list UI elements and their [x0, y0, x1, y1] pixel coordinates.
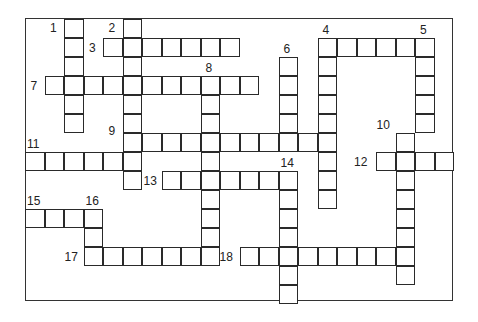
- crossword-cell[interactable]: [318, 171, 338, 190]
- crossword-cell[interactable]: [103, 76, 123, 95]
- crossword-cell[interactable]: [123, 152, 143, 171]
- crossword-cell[interactable]: [201, 171, 221, 190]
- crossword-cell[interactable]: [201, 247, 221, 266]
- crossword-cell[interactable]: [25, 152, 45, 171]
- crossword-cell[interactable]: [396, 152, 416, 171]
- crossword-cell[interactable]: [142, 133, 162, 152]
- crossword-cell[interactable]: [396, 133, 416, 152]
- crossword-cell[interactable]: [318, 247, 338, 266]
- crossword-cell[interactable]: [279, 247, 299, 266]
- crossword-cell[interactable]: [162, 171, 182, 190]
- crossword-cell[interactable]: [357, 247, 377, 266]
- crossword-cell[interactable]: [279, 114, 299, 133]
- crossword-cell[interactable]: [201, 133, 221, 152]
- crossword-cell[interactable]: [64, 114, 84, 133]
- crossword-cell[interactable]: [396, 247, 416, 266]
- crossword-cell[interactable]: [415, 114, 435, 133]
- crossword-cell[interactable]: [162, 133, 182, 152]
- crossword-cell[interactable]: [123, 19, 143, 38]
- crossword-cell[interactable]: [103, 38, 123, 57]
- crossword-cell[interactable]: [123, 38, 143, 57]
- crossword-cell[interactable]: [396, 228, 416, 247]
- crossword-cell[interactable]: [201, 190, 221, 209]
- crossword-cell[interactable]: [415, 95, 435, 114]
- crossword-cell[interactable]: [220, 171, 240, 190]
- crossword-cell[interactable]: [396, 171, 416, 190]
- crossword-cell[interactable]: [181, 247, 201, 266]
- crossword-cell[interactable]: [162, 247, 182, 266]
- crossword-cell[interactable]: [162, 76, 182, 95]
- crossword-cell[interactable]: [220, 38, 240, 57]
- crossword-cell[interactable]: [279, 133, 299, 152]
- crossword-cell[interactable]: [396, 190, 416, 209]
- crossword-cell[interactable]: [103, 152, 123, 171]
- crossword-cell[interactable]: [123, 95, 143, 114]
- crossword-cell[interactable]: [279, 228, 299, 247]
- crossword-cell[interactable]: [279, 57, 299, 76]
- crossword-cell[interactable]: [240, 76, 260, 95]
- crossword-cell[interactable]: [396, 266, 416, 285]
- crossword-cell[interactable]: [45, 209, 65, 228]
- crossword-cell[interactable]: [415, 152, 435, 171]
- crossword-cell[interactable]: [64, 76, 84, 95]
- crossword-cell[interactable]: [357, 38, 377, 57]
- crossword-cell[interactable]: [181, 133, 201, 152]
- crossword-cell[interactable]: [279, 190, 299, 209]
- crossword-cell[interactable]: [84, 247, 104, 266]
- crossword-cell[interactable]: [64, 38, 84, 57]
- crossword-cell[interactable]: [298, 133, 318, 152]
- crossword-cell[interactable]: [259, 171, 279, 190]
- crossword-cell[interactable]: [415, 38, 435, 57]
- crossword-cell[interactable]: [318, 114, 338, 133]
- crossword-cell[interactable]: [64, 152, 84, 171]
- crossword-cell[interactable]: [318, 152, 338, 171]
- crossword-cell[interactable]: [142, 247, 162, 266]
- crossword-cell[interactable]: [123, 247, 143, 266]
- crossword-cell[interactable]: [279, 285, 299, 304]
- crossword-cell[interactable]: [201, 114, 221, 133]
- crossword-cell[interactable]: [123, 76, 143, 95]
- crossword-cell[interactable]: [259, 247, 279, 266]
- crossword-cell[interactable]: [84, 209, 104, 228]
- crossword-cell[interactable]: [64, 209, 84, 228]
- crossword-cell[interactable]: [318, 57, 338, 76]
- crossword-cell[interactable]: [318, 190, 338, 209]
- crossword-cell[interactable]: [201, 228, 221, 247]
- crossword-cell[interactable]: [318, 38, 338, 57]
- crossword-cell[interactable]: [279, 209, 299, 228]
- crossword-cell[interactable]: [337, 38, 357, 57]
- crossword-cell[interactable]: [259, 133, 279, 152]
- crossword-cell[interactable]: [240, 133, 260, 152]
- crossword-cell[interactable]: [201, 38, 221, 57]
- crossword-cell[interactable]: [318, 95, 338, 114]
- crossword-cell[interactable]: [201, 209, 221, 228]
- crossword-cell[interactable]: [376, 38, 396, 57]
- crossword-cell[interactable]: [337, 247, 357, 266]
- crossword-cell[interactable]: [45, 76, 65, 95]
- crossword-cell[interactable]: [142, 38, 162, 57]
- crossword-cell[interactable]: [181, 38, 201, 57]
- crossword-cell[interactable]: [201, 95, 221, 114]
- crossword-cell[interactable]: [181, 171, 201, 190]
- crossword-cell[interactable]: [396, 209, 416, 228]
- crossword-cell[interactable]: [201, 152, 221, 171]
- crossword-cell[interactable]: [415, 76, 435, 95]
- crossword-cell[interactable]: [64, 95, 84, 114]
- crossword-cell[interactable]: [84, 76, 104, 95]
- crossword-cell[interactable]: [376, 247, 396, 266]
- crossword-cell[interactable]: [435, 152, 455, 171]
- crossword-cell[interactable]: [123, 171, 143, 190]
- crossword-cell[interactable]: [64, 19, 84, 38]
- crossword-cell[interactable]: [298, 247, 318, 266]
- crossword-cell[interactable]: [25, 209, 45, 228]
- crossword-cell[interactable]: [240, 247, 260, 266]
- crossword-cell[interactable]: [240, 171, 260, 190]
- crossword-cell[interactable]: [103, 247, 123, 266]
- crossword-cell[interactable]: [45, 152, 65, 171]
- crossword-cell[interactable]: [220, 76, 240, 95]
- crossword-cell[interactable]: [123, 57, 143, 76]
- crossword-cell[interactable]: [318, 76, 338, 95]
- crossword-cell[interactable]: [318, 133, 338, 152]
- crossword-cell[interactable]: [376, 152, 396, 171]
- crossword-cell[interactable]: [64, 57, 84, 76]
